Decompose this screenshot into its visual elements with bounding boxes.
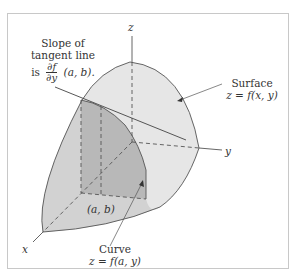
z-axis-label: z xyxy=(128,21,134,33)
surface-label: Surface xyxy=(222,77,282,89)
surface-leader xyxy=(180,84,222,100)
curve-annotation: Curve z = f(a, y) xyxy=(80,243,150,267)
x-axis xyxy=(33,232,43,242)
y-axis-label: y xyxy=(225,145,231,157)
curve-equation: z = f(a, y) xyxy=(80,255,150,267)
surface-equation: z = f(x, y) xyxy=(222,89,282,101)
curve-label: Curve xyxy=(80,243,150,255)
slope-line1: Slope of xyxy=(18,37,108,49)
slope-annotation: Slope of tangent line is ∂f ∂y (a, b). xyxy=(18,37,108,83)
fraction-denominator: ∂y xyxy=(45,73,58,83)
x-axis-label: x xyxy=(22,243,28,255)
partial-fraction: ∂f ∂y xyxy=(45,62,58,83)
slope-line2: tangent line xyxy=(18,49,108,61)
point-label: (a, b) xyxy=(87,203,115,215)
slope-line3: is ∂f ∂y (a, b). xyxy=(18,62,108,83)
slope-suffix: (a, b). xyxy=(64,66,95,78)
slope-prefix: is xyxy=(31,66,40,78)
y-axis xyxy=(199,148,222,150)
surface-annotation: Surface z = f(x, y) xyxy=(222,77,282,101)
